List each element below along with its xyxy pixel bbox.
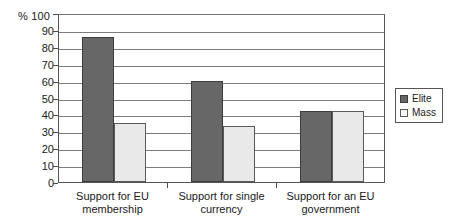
y-tick-label: 50 bbox=[10, 93, 58, 104]
legend-item-elite[interactable]: Elite bbox=[400, 92, 442, 106]
legend-swatch-mass bbox=[400, 109, 408, 117]
x-category-label: Support for EU membership bbox=[58, 190, 167, 216]
legend-swatch-elite bbox=[400, 95, 408, 103]
y-tick-label: 10 bbox=[10, 161, 58, 172]
bar-elite bbox=[191, 81, 223, 182]
y-tick-label: 40 bbox=[10, 110, 58, 121]
y-tick-mark bbox=[53, 183, 58, 184]
bar-elite bbox=[82, 37, 114, 182]
bar-elite bbox=[300, 111, 332, 182]
bar-mass bbox=[114, 123, 146, 182]
legend-label-elite: Elite bbox=[412, 94, 431, 104]
legend: Elite Mass bbox=[395, 88, 443, 123]
bar-mass bbox=[332, 111, 364, 182]
y-tick-label: 70 bbox=[10, 59, 58, 70]
bar-chart: % 100 0102030405060708090 Support for EU… bbox=[0, 0, 458, 224]
bar-group bbox=[277, 15, 386, 182]
y-axis-tick-labels: 0102030405060708090 bbox=[10, 0, 58, 224]
bars-layer bbox=[59, 15, 384, 182]
x-category-label: Support for single currency bbox=[167, 190, 276, 216]
y-tick-label: 20 bbox=[10, 144, 58, 155]
legend-item-mass[interactable]: Mass bbox=[400, 106, 442, 120]
bar-group bbox=[59, 15, 168, 182]
x-category-label: Support for an EU government bbox=[276, 190, 385, 216]
y-tick-label: 80 bbox=[10, 42, 58, 53]
y-tick-label: 30 bbox=[10, 127, 58, 138]
plot-area bbox=[58, 14, 385, 183]
y-tick-label: 0 bbox=[10, 178, 58, 189]
bar-group bbox=[168, 15, 277, 182]
x-axis-separator bbox=[276, 183, 277, 188]
bar-mass bbox=[223, 126, 255, 182]
legend-label-mass: Mass bbox=[412, 108, 436, 118]
x-axis-separator bbox=[167, 183, 168, 188]
y-tick-label: 60 bbox=[10, 76, 58, 87]
y-tick-label: 90 bbox=[10, 25, 58, 36]
